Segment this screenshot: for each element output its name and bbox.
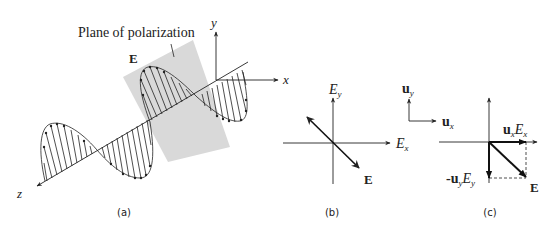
z-axis-label: z	[16, 186, 22, 201]
caption-b: (b)	[325, 207, 339, 218]
panel-c: uy ux uxEx -uyEy E (c)	[402, 81, 539, 218]
ux-ex-label: uxEx	[503, 122, 527, 139]
ex-label: Ex	[395, 136, 409, 153]
e-vector-label-c: E	[530, 180, 539, 195]
caption-a: (a)	[117, 207, 131, 218]
y-axis-label: y	[209, 15, 217, 30]
plane-of-polarization-label: Plane of polarization	[78, 25, 195, 40]
wave-lobe-2	[97, 120, 153, 178]
panel-b: Ey Ex E (b)	[283, 82, 409, 218]
ux-label: ux	[442, 114, 454, 131]
polarization-diagram: Plane of polarization E y x z (a) Ey Ex …	[0, 0, 554, 234]
uy-label: uy	[402, 81, 414, 98]
neg-uy-ey-label: -uyEy	[446, 171, 475, 188]
panel-a: Plane of polarization E y x z (a)	[16, 15, 289, 218]
caption-c: (c)	[483, 207, 496, 218]
wave-lobe-1	[41, 123, 97, 181]
ey-label: Ey	[328, 82, 342, 99]
x-axis-label: x	[282, 72, 289, 87]
field-e-label: E	[129, 51, 138, 66]
e-vector-label-b: E	[364, 172, 373, 187]
e-vector-c	[489, 142, 526, 177]
